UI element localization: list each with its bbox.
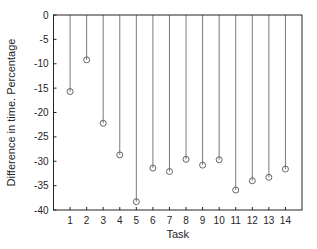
plot-area bbox=[67, 15, 288, 205]
x-tick-label: 7 bbox=[167, 215, 173, 226]
data-point bbox=[100, 15, 106, 126]
data-point bbox=[216, 15, 222, 163]
y-tick-label: -15 bbox=[34, 83, 49, 94]
x-tick-label: 13 bbox=[263, 215, 275, 226]
data-point bbox=[249, 15, 255, 184]
x-axis-label: Task bbox=[166, 228, 189, 240]
data-point bbox=[233, 15, 239, 193]
data-point bbox=[67, 15, 73, 95]
x-tick-label: 5 bbox=[134, 215, 140, 226]
data-point bbox=[84, 15, 90, 63]
y-tick-label: 0 bbox=[43, 10, 49, 21]
y-tick-label: -30 bbox=[34, 156, 49, 167]
y-tick-label: -5 bbox=[40, 34, 49, 45]
data-point bbox=[200, 15, 206, 168]
y-tick-label: -35 bbox=[34, 180, 49, 191]
data-point bbox=[183, 15, 189, 162]
x-tick-label: 10 bbox=[214, 215, 226, 226]
data-point bbox=[117, 15, 123, 158]
x-tick-label: 3 bbox=[100, 215, 106, 226]
data-point bbox=[282, 15, 288, 172]
x-tick-label: 9 bbox=[200, 215, 206, 226]
axes-frame bbox=[54, 15, 303, 210]
y-tick-label: -25 bbox=[34, 131, 49, 142]
stem-chart: 0-5-10-15-20-25-30-35-40 123456789101112… bbox=[0, 0, 317, 249]
data-point bbox=[266, 15, 272, 180]
x-tick-label: 2 bbox=[84, 215, 90, 226]
y-tick-label: -10 bbox=[34, 58, 49, 69]
y-tick-label: -40 bbox=[34, 205, 49, 216]
y-axis-label: Difference in time. Percentage bbox=[5, 39, 17, 187]
data-point bbox=[133, 15, 139, 205]
y-tick-label: -20 bbox=[34, 107, 49, 118]
x-tick-label: 11 bbox=[231, 215, 242, 226]
x-tick-label: 12 bbox=[247, 215, 259, 226]
x-tick-label: 4 bbox=[117, 215, 123, 226]
x-tick-label: 6 bbox=[150, 215, 156, 226]
x-tick-label: 1 bbox=[67, 215, 73, 226]
data-point bbox=[166, 15, 172, 174]
x-tick-label: 14 bbox=[280, 215, 292, 226]
data-point bbox=[150, 15, 156, 171]
x-tick-label: 8 bbox=[183, 215, 189, 226]
